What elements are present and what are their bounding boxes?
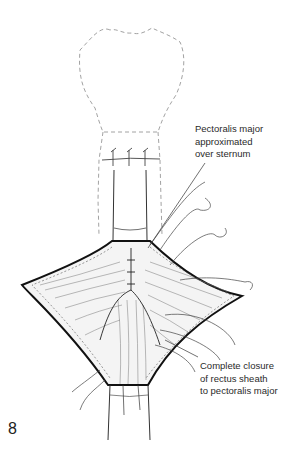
annotation-line: Pectoralis major (195, 123, 263, 136)
annotation-pectoralis: Pectoralis major approximated over stern… (195, 123, 263, 161)
annotation-line: to pectoralis major (200, 385, 278, 398)
annotation-line: Complete closure (200, 360, 278, 373)
sternum-plate (113, 170, 147, 240)
figure-number: 8 (8, 420, 17, 438)
annotation-rectus: Complete closure of rectus sheath to pec… (200, 360, 278, 398)
dashed-body-outline (80, 28, 184, 235)
annotation-line: of rectus sheath (200, 373, 278, 386)
annotation-line: approximated (195, 136, 263, 149)
rectus-region (108, 385, 150, 440)
annotation-line: over sternum (195, 148, 263, 161)
upper-suture-line (102, 148, 160, 166)
